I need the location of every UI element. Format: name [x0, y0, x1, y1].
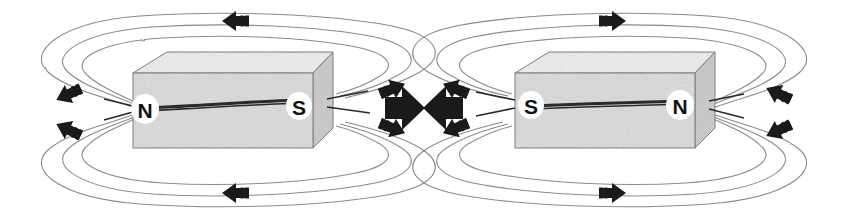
- right-magnet-pole-s: S: [518, 91, 544, 119]
- magnet-top-face: [515, 52, 715, 73]
- right-magnet-south-label: S: [524, 95, 538, 118]
- magnetic-field-diagram: N S: [0, 0, 848, 218]
- left-magnet-south-label: S: [292, 96, 306, 119]
- magnet-top-face: [133, 52, 333, 73]
- right-magnet-north-label: N: [672, 95, 687, 118]
- left-magnet-pole-n: N: [131, 94, 159, 124]
- right-magnet-pole-n: N: [666, 90, 694, 120]
- left-magnet-north-label: N: [137, 99, 152, 122]
- left-magnet-pole-s: S: [286, 92, 312, 120]
- diagram-background: [0, 0, 848, 218]
